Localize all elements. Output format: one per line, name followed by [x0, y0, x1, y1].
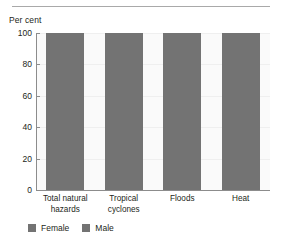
legend-label: Male	[95, 223, 113, 233]
legend-label: Female	[41, 223, 69, 233]
y-axis-tick-label: 40	[0, 122, 32, 132]
y-axis-line	[36, 33, 37, 191]
y-axis-tick	[36, 96, 40, 97]
legend-swatch-icon	[82, 224, 90, 232]
y-axis-tick	[36, 33, 40, 34]
bar-segment[interactable]	[105, 33, 143, 112]
bar-segment[interactable]	[222, 33, 260, 91]
x-axis-category-label: Heat	[205, 194, 277, 205]
bar-chart: 020406080100 Total naturalhazardsTropica…	[0, 0, 282, 244]
bar-segment[interactable]	[105, 112, 143, 191]
x-axis-line	[36, 190, 270, 191]
y-axis-tick	[36, 64, 40, 65]
bar-segment[interactable]	[163, 112, 201, 191]
y-axis-tick-label: 80	[0, 59, 32, 69]
y-axis-tick	[36, 159, 40, 160]
bar-stack[interactable]	[46, 33, 84, 190]
bar-segment[interactable]	[46, 112, 84, 191]
bar-segment[interactable]	[222, 91, 260, 190]
bar-stack[interactable]	[163, 33, 201, 190]
legend-swatch-icon	[28, 224, 36, 232]
legend-item[interactable]: Male	[82, 223, 113, 233]
chart-legend: FemaleMale	[28, 223, 114, 233]
bar-stack[interactable]	[222, 33, 260, 190]
legend-item[interactable]: Female	[28, 223, 69, 233]
y-axis-tick	[36, 127, 40, 128]
y-axis-tick-label: 0	[0, 185, 32, 195]
bar-segment[interactable]	[163, 33, 201, 112]
y-axis-tick-label: 100	[0, 28, 32, 38]
bar-stack[interactable]	[105, 33, 143, 190]
y-axis-tick-label: 60	[0, 91, 32, 101]
bar-segment[interactable]	[46, 33, 84, 112]
y-axis-tick-label: 20	[0, 154, 32, 164]
